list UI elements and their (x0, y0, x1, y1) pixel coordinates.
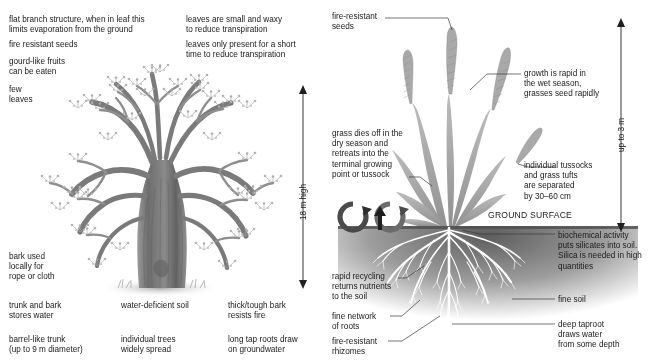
label-growth-rapid-wet-season: growth is rapid in the wet season, grass… (524, 69, 599, 100)
label-leaves-short-time: leaves only present for a short time to … (186, 40, 296, 60)
label-individual-trees-spread: individual trees widely spread (121, 335, 176, 355)
label-barrel-like-trunk: barrel-like trunk (up to 9 m diameter) (9, 335, 83, 355)
label-fire-resistant-seeds-tree: fire resistant seeds (9, 40, 78, 50)
label-grass-dies-off-dry-season: grass dies off in the dry season and ret… (332, 129, 403, 180)
label-fire-resistant-seeds-grass: fire-resistant seeds (332, 12, 377, 32)
label-thick-tough-bark: thick/tough bark resists fire (228, 301, 286, 321)
label-long-tap-roots: long tap roots draw on groundwater (228, 335, 298, 355)
label-trunk-bark-stores-water: trunk and bark stores water (9, 301, 61, 321)
label-individual-tussocks: individual tussocks and grass tufts are … (524, 161, 592, 202)
label-tree-height-measure: 18 m high (299, 184, 308, 220)
label-fine-network-of-roots: fine network of roots (332, 312, 376, 332)
baobab-tree-illustration (41, 64, 283, 297)
label-ground-surface: GROUND SURFACE (488, 210, 572, 220)
label-bark-used-locally: bark used locally for rope or cloth (9, 252, 55, 283)
label-grass-height-measure: up to 3 m (617, 118, 626, 152)
label-few-leaves: few leaves (9, 85, 33, 105)
diagram-canvas: flat branch structure, when in leaf this… (0, 0, 666, 363)
label-fine-soil: fine soil (558, 295, 586, 305)
label-gourd-like-fruits: gourd-like fruits can be eaten (9, 57, 65, 77)
label-flat-branch-structure: flat branch structure, when in leaf this… (9, 15, 145, 35)
label-water-deficient-soil: water-deficient soil (121, 301, 189, 311)
label-fire-resistant-rhizomes: fire-resistant rhizomes (332, 337, 377, 357)
label-leaves-small-waxy: leaves are small and waxy to reduce tran… (186, 15, 282, 35)
label-biochemical-activity: biochemical activity puts silicates into… (558, 231, 642, 272)
label-rapid-recycling: rapid recycling returns nutrients to the… (332, 272, 391, 303)
label-deep-taproot: deep taproot draws water from some depth (558, 320, 619, 351)
tussock-grass-illustration (392, 27, 542, 226)
